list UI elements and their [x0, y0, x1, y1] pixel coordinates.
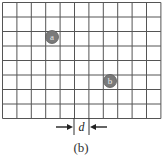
marker-a: a [46, 31, 59, 44]
grid-diagram: ab d [0, 0, 162, 157]
marker-b: b [104, 75, 117, 88]
marker-label: b [108, 76, 113, 86]
dimension-label: d [79, 120, 86, 134]
arrowhead-left-icon [90, 124, 96, 130]
arrowhead-right-icon [67, 124, 73, 130]
markers: ab [46, 31, 117, 88]
grid-lines [3, 3, 161, 119]
figure-caption: (b) [0, 140, 162, 156]
marker-label: a [50, 32, 54, 42]
dimension-indicator: d [56, 118, 107, 135]
